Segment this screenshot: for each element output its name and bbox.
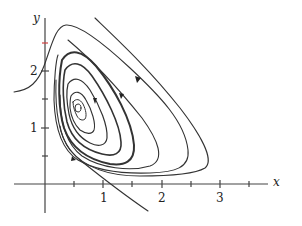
- x-axis-label: x: [273, 176, 280, 188]
- x-tick-label-2: 2: [158, 192, 166, 204]
- phase-portrait: y x 2 1 1 2 3: [0, 0, 302, 226]
- y-tick-label-1: 1: [30, 122, 38, 134]
- phase-plot: [0, 0, 302, 226]
- x-tick-label-1: 1: [100, 192, 108, 204]
- y-tick-label-2: 2: [30, 65, 38, 77]
- x-tick-label-3: 3: [216, 192, 224, 204]
- y-axis-label: y: [33, 12, 40, 24]
